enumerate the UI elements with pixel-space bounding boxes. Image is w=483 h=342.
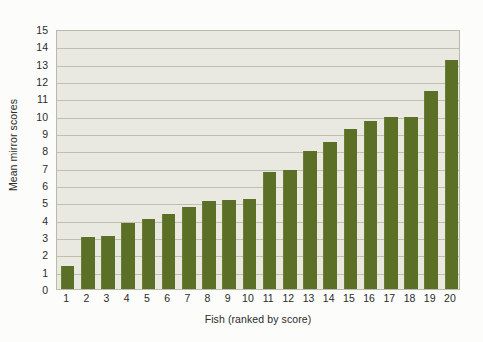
y-tick-label: 2	[22, 250, 48, 261]
bar	[101, 236, 115, 289]
y-tick-label: 1	[22, 267, 48, 278]
y-tick-label: 7	[22, 163, 48, 174]
bar	[283, 170, 297, 289]
bar	[445, 60, 459, 289]
y-tick-label: 15	[22, 25, 48, 36]
y-axis-tick-labels: 0123456789101112131415	[22, 30, 52, 290]
y-tick-label: 10	[22, 111, 48, 122]
bar	[404, 117, 418, 289]
y-tick-label: 3	[22, 233, 48, 244]
bar-chart-figure: Mean mirror scores 012345678910111213141…	[0, 0, 483, 342]
y-tick-label: 4	[22, 215, 48, 226]
x-tick-label: 6	[164, 292, 170, 306]
bar	[364, 121, 378, 289]
bar	[162, 214, 176, 289]
bar	[202, 201, 216, 289]
y-tick-label: 8	[22, 146, 48, 157]
y-tick-label: 0	[22, 285, 48, 296]
x-tick-label: 4	[124, 292, 130, 306]
x-tick-label: 12	[282, 292, 294, 306]
x-tick-label: 5	[144, 292, 150, 306]
x-tick-label: 20	[444, 292, 456, 306]
y-axis-title-text: Mean mirror scores	[7, 99, 19, 191]
x-tick-label: 16	[363, 292, 375, 306]
x-tick-label: 11	[263, 292, 274, 306]
x-tick-label: 8	[205, 292, 211, 306]
x-tick-label: 14	[323, 292, 335, 306]
bar	[243, 199, 257, 289]
x-tick-label: 2	[83, 292, 89, 306]
x-axis-title: Fish (ranked by score)	[56, 313, 460, 325]
bar	[424, 91, 438, 289]
x-tick-label: 7	[184, 292, 190, 306]
y-tick-label: 11	[22, 94, 48, 105]
bar	[263, 172, 277, 289]
y-axis-title: Mean mirror scores	[4, 0, 22, 290]
x-tick-label: 15	[343, 292, 355, 306]
y-tick-label: 9	[22, 129, 48, 140]
plot-area	[56, 30, 460, 290]
x-tick-label: 10	[242, 292, 254, 306]
bar	[121, 223, 135, 289]
y-tick-label: 5	[22, 198, 48, 209]
bar	[142, 219, 156, 289]
x-tick-label: 18	[404, 292, 416, 306]
bar	[182, 207, 196, 289]
bar-series	[57, 31, 459, 289]
bar	[384, 117, 398, 289]
y-tick-label: 6	[22, 181, 48, 192]
y-tick-label: 14	[22, 42, 48, 53]
x-axis-tick-labels: 1234567891011121314151617181920	[56, 292, 460, 310]
x-tick-label: 9	[225, 292, 231, 306]
x-tick-label: 17	[383, 292, 395, 306]
x-tick-label: 1	[63, 292, 69, 306]
x-tick-label: 19	[424, 292, 436, 306]
bar	[323, 142, 337, 289]
bar	[81, 237, 95, 289]
x-tick-label: 13	[303, 292, 315, 306]
bar	[61, 266, 75, 289]
bar	[303, 151, 317, 289]
x-tick-label: 3	[104, 292, 110, 306]
bar	[344, 129, 358, 289]
y-tick-label: 12	[22, 77, 48, 88]
y-tick-label: 13	[22, 59, 48, 70]
bar	[222, 200, 236, 289]
